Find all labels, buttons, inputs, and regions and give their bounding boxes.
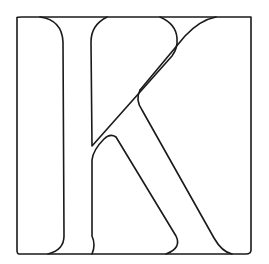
- k-stem-left-edge: [40, 17, 64, 254]
- letter-k-illustration: [0, 0, 269, 264]
- frame-outline: [17, 17, 251, 254]
- k-leg-right-edge: [138, 90, 232, 254]
- k-leg-outline: [92, 135, 178, 254]
- k-stem-right-and-arm: [91, 17, 177, 146]
- letter-k-drawing: [0, 0, 269, 264]
